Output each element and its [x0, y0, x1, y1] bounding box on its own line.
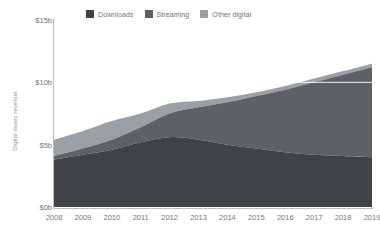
x-tick-label-2015: 2015	[248, 213, 265, 222]
x-tick-label-2016: 2016	[277, 213, 294, 222]
legend-label-downloads: Downloads	[98, 11, 134, 18]
x-tick-label-2008: 2008	[46, 213, 63, 222]
y-tick-label-15: $15b	[35, 16, 52, 25]
legend-swatch-icon-streaming	[145, 10, 153, 18]
legend-swatch-icon-other-digital	[200, 10, 208, 18]
x-tick-label-2019: 2019	[364, 213, 380, 222]
chart-legend: Downloads Streaming Other digital	[86, 10, 251, 18]
legend-label-other-digital: Other digital	[212, 11, 251, 18]
legend-swatch-icon-downloads	[86, 10, 94, 18]
x-tick-label-2017: 2017	[306, 213, 323, 222]
y-tick-label-5: $5b	[39, 140, 52, 149]
legend-item-downloads[interactable]: Downloads	[86, 10, 134, 18]
legend-item-other-digital[interactable]: Other digital	[200, 10, 251, 18]
y-axis-tick-labels: $15b$10b$5b$0b	[16, 0, 52, 234]
legend-item-streaming[interactable]: Streaming	[145, 10, 190, 18]
x-tick-label-2012: 2012	[161, 213, 178, 222]
y-tick-label-0: $0b	[39, 203, 52, 212]
plot-area	[54, 20, 372, 207]
x-tick-label-2018: 2018	[335, 213, 352, 222]
x-tick-label-2013: 2013	[190, 213, 207, 222]
y-tick-label-10: $10b	[35, 78, 52, 87]
x-tick-label-2011: 2011	[133, 213, 149, 222]
stacked-area-svg	[54, 20, 372, 207]
x-tick-label-2009: 2009	[75, 213, 92, 222]
legend-label-streaming: Streaming	[157, 11, 190, 18]
x-tick-label-2010: 2010	[103, 213, 120, 222]
x-axis-line	[53, 208, 373, 209]
x-tick-label-2014: 2014	[219, 213, 236, 222]
x-axis-tick-labels: 2008200920102011201220132014201520162017…	[54, 213, 372, 231]
